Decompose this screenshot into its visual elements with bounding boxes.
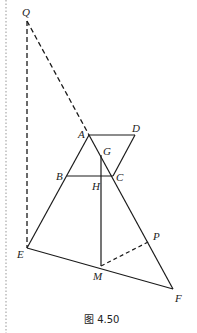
label-E: E	[16, 248, 24, 260]
label-C: C	[116, 171, 124, 183]
segment-AE	[27, 135, 89, 248]
label-A: A	[77, 128, 85, 140]
label-M: M	[92, 270, 103, 282]
figure-caption: 图 4.50	[84, 314, 119, 325]
label-G: G	[103, 145, 111, 157]
segment-DC	[113, 135, 135, 176]
segment-EF	[27, 248, 173, 289]
label-D: D	[131, 122, 140, 134]
segment-QA	[27, 21, 89, 135]
geometry-figure: Q A D G B H C E M P F 图 4.50	[0, 0, 197, 333]
label-F: F	[174, 292, 182, 304]
label-H: H	[91, 180, 101, 192]
segment-MP	[101, 241, 150, 266]
label-P: P	[152, 230, 160, 242]
label-B: B	[56, 170, 63, 182]
label-Q: Q	[22, 6, 30, 18]
